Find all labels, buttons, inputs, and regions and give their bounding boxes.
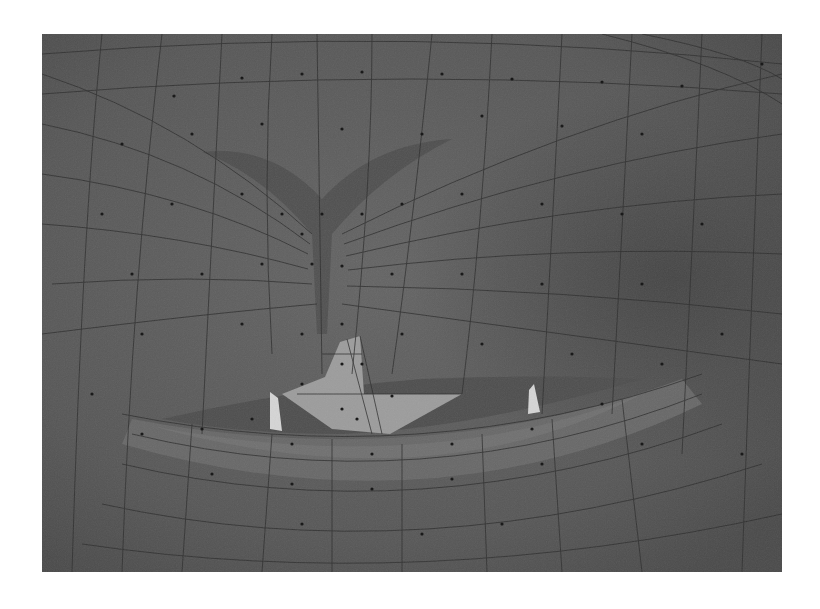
mesh-svg [42,34,782,572]
face-mesh-render [42,34,782,572]
